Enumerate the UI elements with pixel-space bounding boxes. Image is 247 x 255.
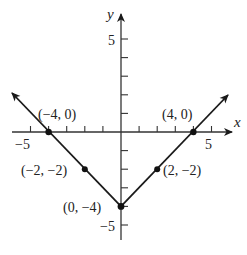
- absolute-value-graph: y x 5 −5 −5 5 (−4, 0) (4, 0) (−2, −2) (2…: [0, 0, 247, 255]
- point-2-neg2: [154, 166, 160, 172]
- point-4-0: [190, 129, 196, 135]
- point-0-neg4: [118, 203, 125, 210]
- x-axis-label: x: [233, 114, 241, 130]
- y-tick-label-neg5: −5: [100, 219, 115, 234]
- point-neg2-neg2: [82, 166, 88, 172]
- y-tick-label-5: 5: [108, 33, 115, 48]
- point-neg4-0: [45, 129, 51, 135]
- x-tick-label-neg5: −5: [15, 137, 30, 152]
- point-label-neg4-0: (−4, 0): [38, 107, 77, 123]
- point-label-2-neg2: (2, −2): [163, 163, 202, 179]
- point-label-4-0: (4, 0): [162, 107, 193, 123]
- point-label-0-neg4: (0, −4): [63, 200, 102, 216]
- point-label-neg2-neg2: (−2, −2): [21, 163, 67, 179]
- x-tick-label-5: 5: [205, 137, 212, 152]
- y-axis-label: y: [105, 6, 114, 22]
